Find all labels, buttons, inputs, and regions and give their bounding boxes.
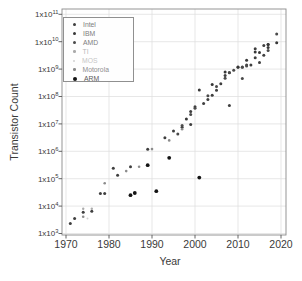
legend-label-ti: TI	[83, 48, 89, 55]
legend-label-intel: Intel	[83, 21, 96, 28]
data-point-amd	[228, 71, 231, 74]
data-point-motorola	[151, 148, 154, 151]
legend-marker-amd-icon	[73, 41, 76, 44]
legend-item-intel: Intel	[64, 20, 133, 29]
data-point-arm	[197, 176, 201, 180]
y-tick-label-1e3: 1x103	[38, 228, 59, 238]
data-point-motorola	[181, 128, 184, 131]
data-point-motorola	[82, 215, 85, 218]
legend-item-amd: AMD	[64, 38, 133, 47]
data-point-ti	[91, 208, 93, 210]
data-point-intel	[189, 110, 192, 113]
data-point-arm	[146, 163, 150, 167]
legend-label-mos: MOS	[82, 57, 97, 64]
data-point-intel	[219, 82, 222, 85]
data-point-ti	[82, 208, 84, 210]
data-point-arm	[129, 193, 133, 197]
data-point-intel	[73, 217, 76, 220]
data-point-intel	[228, 104, 231, 107]
data-point-ibm	[185, 118, 188, 121]
data-point-amd	[241, 77, 244, 80]
x-tick-label-1980: 1980	[97, 238, 121, 250]
legend-label-arm: ARM	[84, 75, 99, 82]
data-point-intel	[103, 192, 106, 195]
data-point-ibm	[254, 51, 257, 54]
data-point-intel	[206, 98, 209, 101]
legend-item-ti: TI	[64, 47, 133, 56]
data-point-intel	[224, 74, 227, 77]
data-point-ibm	[237, 65, 240, 68]
data-point-ibm	[198, 88, 201, 91]
data-point-intel	[215, 89, 218, 92]
data-point-motorola	[103, 182, 106, 185]
data-point-intel	[69, 222, 72, 225]
data-point-intel	[262, 44, 265, 47]
legend-label-ibm: IBM	[83, 30, 95, 37]
data-point-amd	[245, 65, 248, 68]
x-tick-label-1990: 1990	[140, 238, 164, 250]
data-point-intel	[189, 123, 192, 126]
x-axis-title: Year	[140, 255, 200, 267]
data-point-amd	[224, 77, 227, 80]
data-point-amd	[241, 65, 244, 68]
data-point-intel	[262, 54, 265, 57]
y-tick-label-1e9: 1x109	[38, 64, 59, 74]
legend-item-mos: MOS	[64, 56, 133, 65]
x-tick-label-2000: 2000	[183, 238, 207, 250]
legend-label-motorola: Motorola	[83, 66, 109, 73]
scatter-plot: 1970198019902000201020201x1031x1041x1051…	[0, 0, 302, 281]
data-point-ibm	[211, 83, 214, 86]
data-point-arm	[167, 156, 171, 160]
data-point-intel	[211, 94, 214, 97]
x-tick-label-2020: 2020	[269, 238, 293, 250]
data-point-amd	[232, 69, 235, 72]
data-point-amd	[206, 94, 209, 97]
data-point-mos	[87, 218, 89, 220]
data-point-ibm	[267, 43, 270, 46]
legend-item-arm: ARM	[64, 74, 133, 83]
data-point-intel	[99, 192, 102, 195]
legend-item-ibm: IBM	[64, 29, 133, 38]
data-point-intel	[254, 47, 257, 50]
y-tick-label-1e7: 1x107	[38, 119, 59, 129]
y-tick-label-1e5: 1x105	[38, 173, 59, 183]
data-point-ibm	[275, 41, 278, 44]
legend-item-motorola: Motorola	[64, 65, 133, 74]
data-point-intel	[116, 174, 119, 177]
data-point-amd	[194, 107, 197, 110]
data-point-intel	[82, 211, 85, 214]
y-tick-label-1e4: 1x104	[38, 201, 59, 211]
data-point-ibm	[224, 70, 227, 73]
data-point-intel	[202, 102, 205, 105]
y-axis-title: Transistor Count	[6, 52, 22, 192]
y-tick-label-1e11: 1x1011	[35, 9, 58, 19]
data-point-motorola	[138, 165, 141, 168]
data-point-amd	[189, 113, 192, 116]
data-point-motorola	[168, 139, 171, 142]
legend-label-amd: AMD	[83, 39, 98, 46]
legend-marker-arm-icon	[73, 77, 77, 81]
data-point-amd	[176, 132, 179, 135]
x-tick-label-1970: 1970	[54, 238, 78, 250]
y-tick-label-1e10: 1x1010	[35, 36, 59, 46]
data-point-amd	[181, 124, 184, 127]
legend-marker-mos-icon	[73, 60, 75, 62]
data-point-intel	[163, 136, 166, 139]
data-point-intel	[254, 56, 257, 59]
data-point-amd	[215, 85, 218, 88]
data-point-arm	[154, 189, 158, 193]
data-point-intel	[129, 165, 132, 168]
legend-marker-motorola-icon	[73, 68, 76, 71]
transistor-count-chart: 1970198019902000201020201x1031x1041x1051…	[0, 0, 302, 281]
data-point-intel	[249, 64, 252, 67]
data-point-arm	[133, 191, 137, 195]
legend-marker-ibm-icon	[73, 32, 76, 35]
y-tick-label-1e8: 1x108	[38, 91, 59, 101]
legend-marker-intel-icon	[73, 23, 76, 26]
data-point-intel	[90, 210, 93, 213]
legend: IntelIBMAMDTIMOSMotorolaARM	[63, 17, 134, 82]
x-tick-label-2010: 2010	[226, 238, 250, 250]
y-tick-label-1e6: 1x106	[38, 146, 59, 156]
data-point-ibm	[258, 51, 261, 54]
data-point-amd	[267, 49, 270, 52]
